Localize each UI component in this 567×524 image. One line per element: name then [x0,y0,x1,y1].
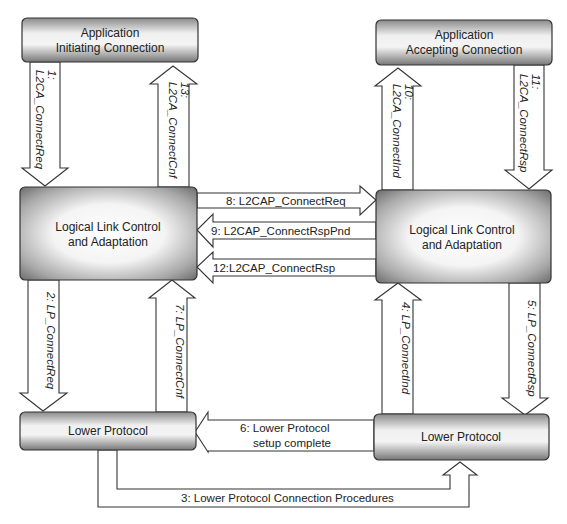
box-app-accepting-line2: Accepting Connection [406,43,523,57]
arrow-8-l2cap-connectreq: 8: L2CAP_ConnectReq [197,186,376,215]
arrow-12-label: 12:L2CAP_ConnectRsp [213,262,335,274]
connection-diagram: 1: L2CA_ConnectReq 13: L2CA_ConnectCnf 1… [0,0,567,524]
box-app-initiating-line2: Initiating Connection [56,41,165,55]
arrow-13-label: L2CA_ConnectCnf [167,82,179,180]
arrow-5-label: 5: LP_ConnectRsp [526,300,538,397]
arrow-6-lower-protocol-setup-complete: 6: Lower Protocol setup complete [195,412,374,452]
arrow-9-l2cap-connectrsppnd: 9: L2CAP_ConnectRspPnd [197,214,376,247]
box-lower-protocol-left: Lower Protocol [20,412,196,450]
arrow-12-l2cap-connectrsp: 12:L2CAP_ConnectRsp [197,252,376,283]
box-llc-right-line2: and Adaptation [422,238,502,252]
box-app-accepting: Application Accepting Connection [376,20,552,65]
box-lower-protocol-right: Lower Protocol [374,414,549,460]
arrow-4-label: 4: LP_ConnectInd [400,302,412,395]
arrow-11-l2ca-connectrsp: 11: L2CA_ConnectRsp [505,65,552,189]
arrow-9-label: 9: L2CAP_ConnectRspPnd [211,225,350,237]
box-llc-left: Logical Link Control and Adaptation [20,187,197,280]
box-llc-right-line1: Logical Link Control [409,223,514,237]
arrow-5-lp-connectrsp: 5: LP_ConnectRsp [502,283,548,415]
arrow-10-l2ca-connectind: 10: L2CA_ConnectInd [375,68,421,190]
box-lower-left-label: Lower Protocol [68,424,148,438]
arrow-13-num: 13: [179,82,191,98]
arrow-7-label: 7: LP_ConnectCnf [174,304,186,400]
arrow-4-lp-connectind: 4: LP_ConnectInd [375,283,421,414]
arrow-7-lp-connectcnf: 7: LP_ConnectCnf [149,280,195,412]
arrow-11-label: L2CA_ConnectRsp [518,74,530,173]
arrow-6-line1: 6: Lower Protocol [240,422,330,434]
arrow-3-label: 3: Lower Protocol Connection Procedures [181,492,394,504]
arrow-10-label: L2CA_ConnectInd [391,84,403,179]
box-llc-right: Logical Link Control and Adaptation [376,190,551,283]
box-llc-left-line1: Logical Link Control [55,220,160,234]
box-app-initiating-line1: Application [81,26,140,40]
box-lower-right-label: Lower Protocol [421,430,501,444]
arrow-2-lp-connectreq: 2: LP_ConnectReq [20,280,67,411]
box-app-initiating: Application Initiating Connection [22,18,198,62]
box-app-accepting-line1: Application [435,28,494,42]
arrow-8-label: 8: L2CAP_ConnectReq [226,195,346,207]
arrow-1-num: 1: [46,70,58,80]
arrow-10-num: 10: [403,84,415,100]
arrow-13-l2ca-connectcnf: 13: L2CA_ConnectCnf [150,66,197,187]
box-llc-left-line2: and Adaptation [68,235,148,249]
arrow-2-label: 2: LP_ConnectReq [45,291,57,390]
arrow-6-line2: setup complete [253,437,331,449]
arrow-1-l2ca-connectreq: 1: L2CA_ConnectReq [22,62,68,186]
arrow-1-label: L2CA_ConnectReq [34,70,46,170]
arrow-11-num: 11: [530,74,542,89]
